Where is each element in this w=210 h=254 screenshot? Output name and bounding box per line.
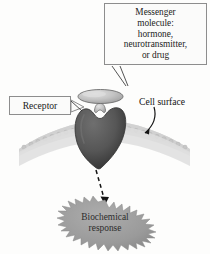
messenger-line-1: Messenger — [107, 7, 204, 18]
response-line-1: Biochemical — [58, 212, 152, 223]
signal-transduction-arrow — [96, 170, 109, 205]
receptor-signaling-figure: Messenger molecule: hormone, neurotransm… — [0, 0, 210, 254]
messenger-line-5: or drug — [107, 50, 204, 61]
messenger-line-4: neurotransmitter, — [107, 39, 204, 50]
cell-surface-label: Cell surface — [139, 96, 185, 107]
messenger-line-3: hormone, — [107, 29, 204, 40]
receptor-callout: Receptor — [9, 96, 71, 115]
response-line-2: response — [58, 223, 152, 234]
messenger-line-2: molecule: — [107, 18, 204, 29]
receptor-protein — [75, 108, 126, 169]
messenger-leader-lines — [112, 66, 128, 86]
messenger-molecule-callout: Messenger molecule: hormone, neurotransm… — [104, 3, 207, 65]
biochemical-response-label: Biochemical response — [58, 212, 152, 234]
